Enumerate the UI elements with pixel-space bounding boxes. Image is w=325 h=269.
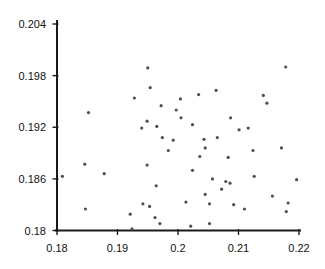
data-point [141,202,144,205]
data-point [155,184,158,187]
data-point [271,195,274,198]
data-point [61,175,64,178]
data-point [202,138,205,141]
data-point [197,93,200,96]
data-point [284,65,287,68]
data-point [155,125,158,128]
data-point [204,146,207,149]
x-tick-label: 0.18 [46,242,67,254]
data-point [220,188,223,191]
data-point [161,136,164,139]
y-tick-label: 0.192 [18,121,46,133]
data-point [83,163,86,166]
data-point [175,108,178,111]
data-point [285,210,288,213]
data-point [204,193,207,196]
data-point [238,128,241,131]
data-point [140,127,143,130]
data-point [211,177,214,180]
y-tick-label: 0.186 [18,173,46,185]
data-point [243,207,246,210]
data-point [287,201,290,204]
data-point [146,120,149,123]
data-point [84,207,87,210]
data-point [208,222,211,225]
data-point [158,222,161,225]
data-point [179,97,182,100]
scatter-chart: 0.180.1860.1920.1980.2040.180.190.20.210… [0,0,325,269]
data-point [149,86,152,89]
data-point [216,136,219,139]
data-point [215,89,218,92]
data-point [247,127,250,130]
data-point [228,182,231,185]
data-point [208,202,211,205]
data-point [103,172,106,175]
data-point [133,96,136,99]
data-point [148,205,151,208]
data-point [224,180,227,183]
data-point [191,123,194,126]
data-point [189,225,192,228]
data-point [227,156,230,159]
data-point [153,216,156,219]
data-point [130,227,133,230]
data-point [179,116,182,119]
data-point [253,175,256,178]
data-point [251,149,254,152]
data-point [191,169,194,172]
x-tick-label: 0.19 [107,242,128,254]
data-point [184,201,187,204]
data-point [280,146,283,149]
y-tick-label: 0.18 [25,225,46,237]
data-point [198,155,201,158]
data-point [232,203,235,206]
x-tick-label: 0.21 [228,242,249,254]
x-tick-label: 0.2 [170,242,185,254]
data-point [87,111,90,114]
y-tick-label: 0.198 [18,70,46,82]
data-point [146,164,149,167]
data-point [229,116,232,119]
data-point [167,149,170,152]
data-point [172,139,175,142]
data-point [129,213,132,216]
y-tick-label: 0.204 [18,18,46,30]
chart-canvas: 0.180.1860.1920.1980.2040.180.190.20.210… [0,0,325,269]
data-point [262,94,265,97]
data-point [265,102,268,105]
data-point [160,104,163,107]
data-point [295,178,298,181]
x-tick-label: 0.22 [288,242,309,254]
data-point [146,66,149,69]
